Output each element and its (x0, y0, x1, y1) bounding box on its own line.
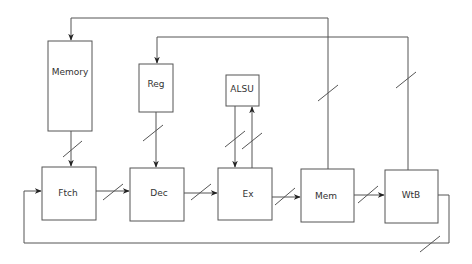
block-alsu[interactable]: ALSU (226, 75, 259, 106)
bus-slash (63, 141, 82, 157)
wire-mem-to-memory (71, 18, 338, 169)
wire-wtb-to-reg (157, 37, 416, 170)
block-memory[interactable]: Memory (48, 41, 92, 131)
wire-mem-to-wtb (354, 186, 384, 203)
wire-ex-to-alsu (242, 107, 262, 168)
block-ftch-label: Ftch (58, 188, 77, 198)
wire-dec-to-ex (184, 184, 217, 200)
block-wtb[interactable]: WtB (385, 170, 438, 223)
pipeline-diagram: Memory Reg ALSU Ftch Dec Ex Mem WtB (0, 0, 472, 264)
block-ex[interactable]: Ex (218, 168, 272, 220)
block-mem[interactable]: Mem (301, 169, 354, 222)
wire-reg-to-dec (143, 112, 163, 167)
block-wtb-label: WtB (402, 190, 421, 200)
block-ex-label: Ex (242, 189, 254, 199)
block-mem-label: Mem (315, 191, 337, 201)
bus-slash (396, 72, 416, 88)
block-ftch[interactable]: Ftch (42, 167, 96, 220)
block-dec-label: Dec (150, 188, 167, 198)
block-reg[interactable]: Reg (139, 64, 173, 112)
wire-ftch-to-dec (96, 184, 129, 200)
block-alsu-label: ALSU (230, 84, 253, 94)
bus-slash (420, 236, 440, 252)
wire-alsu-to-ex (225, 106, 245, 167)
block-memory-label: Memory (52, 67, 89, 77)
block-dec[interactable]: Dec (130, 168, 184, 221)
bus-slash (103, 184, 123, 200)
wire-memory-to-ftch (63, 131, 82, 166)
block-reg-label: Reg (147, 79, 164, 89)
bus-slash (143, 125, 163, 141)
bus-slash (191, 184, 211, 200)
wire-ex-to-mem (272, 188, 300, 205)
